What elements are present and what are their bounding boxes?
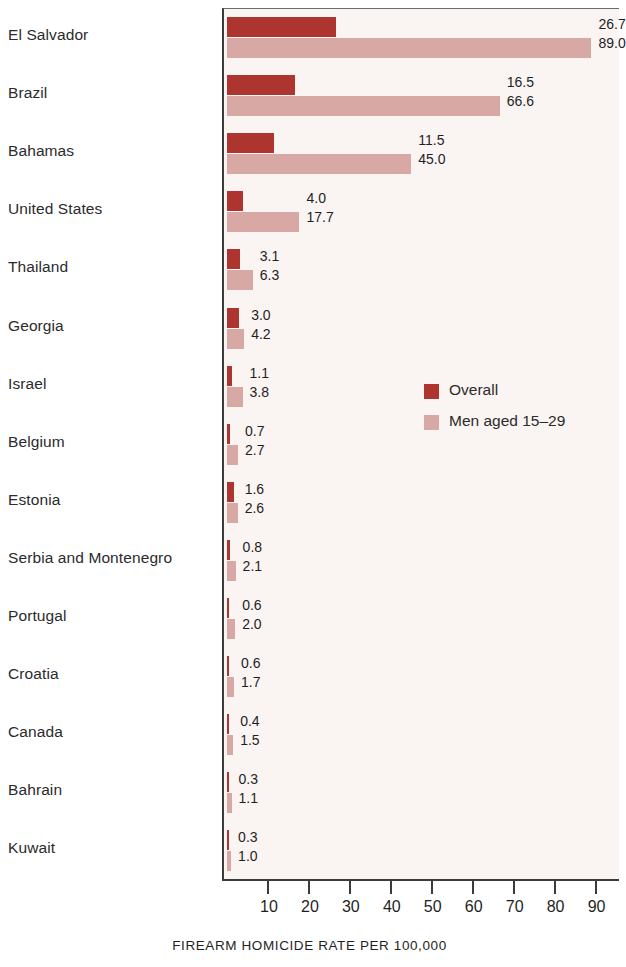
value-labels: 0.62.0	[242, 596, 261, 634]
bar-overall	[227, 249, 240, 269]
bar-overall	[227, 424, 230, 444]
country-label: Canada	[8, 723, 214, 741]
bar-overall	[227, 598, 229, 618]
x-tick-label: 50	[413, 898, 453, 916]
bar-row: Georgia3.04.2	[0, 299, 619, 357]
value-label-overall: 11.5	[418, 131, 445, 150]
legend-swatch-icon	[424, 384, 439, 399]
value-label-overall: 3.0	[251, 306, 270, 325]
bar-overall	[227, 714, 229, 734]
bar-men-aged-15-29	[227, 503, 238, 523]
value-label-overall: 0.7	[245, 422, 264, 441]
x-tick-label: 60	[454, 898, 494, 916]
value-label-men-aged-15-29: 4.2	[251, 325, 270, 344]
x-tick-label: 10	[249, 898, 289, 916]
country-label: Croatia	[8, 665, 214, 683]
bar-men-aged-15-29	[227, 329, 244, 349]
value-label-overall: 3.1	[260, 247, 279, 266]
country-label: Bahrain	[8, 781, 214, 799]
country-label: United States	[8, 200, 214, 218]
x-tick-mark	[349, 881, 351, 894]
value-labels: 1.13.8	[250, 364, 269, 402]
value-label-overall: 26.7	[598, 15, 625, 34]
x-tick-mark	[431, 881, 433, 894]
bar-overall	[227, 366, 232, 386]
country-label: El Salvador	[8, 26, 214, 44]
value-label-overall: 0.3	[239, 770, 258, 789]
value-labels: 3.04.2	[251, 306, 270, 344]
bar-row: Portugal0.62.0	[0, 589, 619, 647]
bar-row: Bahamas11.545.0	[0, 124, 619, 182]
bar-row: Thailand3.16.3	[0, 240, 619, 298]
value-labels: 4.017.7	[306, 189, 333, 227]
bar-overall	[227, 308, 239, 328]
legend-swatch-icon	[424, 415, 439, 430]
value-label-overall: 0.8	[243, 538, 262, 557]
country-label: Portugal	[8, 607, 214, 625]
x-tick-label: 30	[331, 898, 371, 916]
bar-row: El Salvador26.789.0	[0, 8, 619, 66]
bar-men-aged-15-29	[227, 212, 299, 232]
x-tick-mark	[390, 881, 392, 894]
bar-men-aged-15-29	[227, 735, 233, 755]
legend-item: Overall	[424, 381, 604, 412]
country-label: Belgium	[8, 433, 214, 451]
x-axis-title: FIREARM HOMICIDE RATE PER 100,000	[0, 938, 619, 953]
value-label-men-aged-15-29: 1.0	[238, 847, 257, 866]
value-labels: 3.16.3	[260, 247, 279, 285]
bar-row: Serbia and Montenegro0.82.1	[0, 531, 619, 589]
value-label-men-aged-15-29: 2.6	[245, 499, 264, 518]
x-tick-label: 40	[372, 898, 412, 916]
value-labels: 0.41.5	[240, 712, 259, 750]
value-label-overall: 4.0	[306, 189, 333, 208]
bar-men-aged-15-29	[227, 270, 253, 290]
legend-label: Overall	[449, 381, 498, 399]
value-label-men-aged-15-29: 17.7	[306, 208, 333, 227]
value-labels: 0.61.7	[241, 654, 260, 692]
value-labels: 0.31.1	[239, 770, 258, 808]
bar-men-aged-15-29	[227, 619, 235, 639]
bar-row: Estonia1.62.6	[0, 473, 619, 531]
bar-row: Croatia0.61.7	[0, 647, 619, 705]
bar-men-aged-15-29	[227, 387, 243, 407]
chart-legend: OverallMen aged 15–29	[424, 381, 604, 443]
x-tick-label: 80	[536, 898, 576, 916]
value-label-men-aged-15-29: 66.6	[507, 92, 534, 111]
bar-row: Bahrain0.31.1	[0, 763, 619, 821]
bar-row: Brazil16.566.6	[0, 66, 619, 124]
x-tick-label: 90	[577, 898, 617, 916]
bar-overall	[227, 75, 295, 95]
x-tick-mark	[554, 881, 556, 894]
bar-overall	[227, 482, 234, 502]
country-label: Israel	[8, 375, 214, 393]
bar-men-aged-15-29	[227, 96, 500, 116]
bar-men-aged-15-29	[227, 851, 231, 871]
bar-overall	[227, 830, 229, 850]
legend-label: Men aged 15–29	[449, 412, 565, 430]
bar-overall	[227, 17, 336, 37]
bar-men-aged-15-29	[227, 793, 232, 813]
bar-row: Canada0.41.5	[0, 705, 619, 763]
value-label-men-aged-15-29: 1.5	[240, 731, 259, 750]
value-labels: 0.82.1	[243, 538, 262, 576]
value-label-overall: 16.5	[507, 73, 534, 92]
x-tick-mark	[595, 881, 597, 894]
value-label-men-aged-15-29: 2.7	[245, 441, 264, 460]
country-label: Serbia and Montenegro	[8, 549, 214, 567]
x-tick-mark	[472, 881, 474, 894]
value-label-men-aged-15-29: 6.3	[260, 266, 279, 285]
bar-men-aged-15-29	[227, 677, 234, 697]
value-label-men-aged-15-29: 1.7	[241, 673, 260, 692]
bar-men-aged-15-29	[227, 561, 236, 581]
bar-overall	[227, 191, 243, 211]
value-label-men-aged-15-29: 2.1	[243, 557, 262, 576]
legend-item: Men aged 15–29	[424, 412, 604, 443]
bar-overall	[227, 540, 230, 560]
value-label-men-aged-15-29: 1.1	[239, 789, 258, 808]
value-label-overall: 0.3	[238, 828, 257, 847]
country-label: Kuwait	[8, 839, 214, 857]
value-labels: 0.72.7	[245, 422, 264, 460]
bar-men-aged-15-29	[227, 154, 411, 174]
value-label-men-aged-15-29: 2.0	[242, 615, 261, 634]
